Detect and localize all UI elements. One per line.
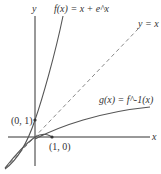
function-inverse-diagram: y x f(x) = x + e^x y = x g(x) = f^-1(x) … [0, 0, 161, 174]
point-0-1-label: (0, 1) [11, 115, 33, 127]
x-axis-label: x [151, 131, 157, 142]
identity-line-label: y = x [137, 18, 159, 29]
point-1-0-label: (1, 0) [49, 141, 71, 153]
point-0-1 [33, 118, 36, 121]
y-axis-label: y [31, 3, 37, 14]
g-curve-label: g(x) = f^-1(x) [99, 94, 154, 106]
f-curve-label: f(x) = x + e^x [54, 3, 109, 15]
point-1-0 [50, 135, 53, 138]
